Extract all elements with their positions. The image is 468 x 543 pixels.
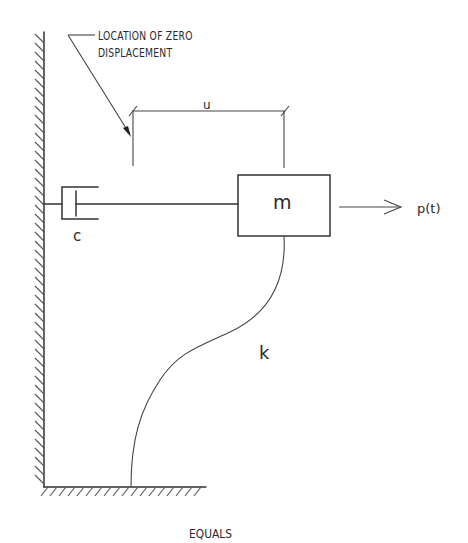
damping-label: c	[73, 229, 81, 244]
mass-label: m	[273, 193, 292, 212]
force-arrow	[339, 200, 401, 214]
ground	[41, 487, 206, 496]
equals-caption: EQUALS	[189, 527, 232, 540]
displacement-dimension	[129, 106, 289, 168]
displacement-label: u	[203, 99, 211, 111]
force-label: p(t)	[417, 202, 441, 215]
stiffness-label: k	[259, 344, 269, 362]
zero-displacement-note-line1: LOCATION OF ZERO	[98, 30, 193, 43]
leader-arrowhead-icon	[123, 126, 131, 137]
zero-displacement-note-line2: DISPLACEMENT	[98, 47, 172, 60]
fixed-wall	[35, 32, 44, 487]
damper	[44, 187, 238, 219]
sdof-diagram	[0, 0, 468, 543]
